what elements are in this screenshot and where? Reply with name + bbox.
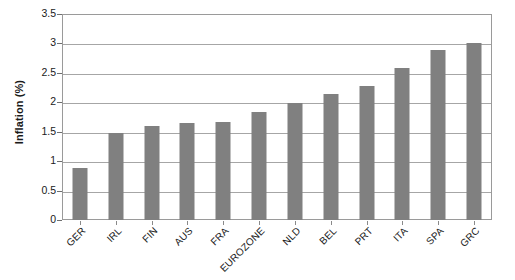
bar-slot — [385, 14, 421, 220]
x-label-slot: EUROZONE — [241, 221, 277, 279]
bar-slot — [241, 14, 277, 220]
x-tick-label-irl: IRL — [104, 225, 123, 244]
x-tick-label-prt: PRT — [352, 225, 374, 247]
x-tick-label-spa: SPA — [424, 225, 446, 247]
bar-slot — [134, 14, 170, 220]
x-label-slot: BEL — [313, 221, 349, 279]
x-label-slot: ITA — [385, 221, 421, 279]
x-tick-mark — [187, 221, 188, 225]
bar-slot — [98, 14, 134, 220]
bar-slot — [277, 14, 313, 220]
bar-fin[interactable] — [144, 126, 159, 220]
x-label-slot: PRT — [349, 221, 385, 279]
bar-irl[interactable] — [108, 133, 123, 220]
bar-chart: Inflation (%) 00.511.522.533.5 GERIRLFIN… — [0, 0, 515, 280]
y-tick-label: 1.5 — [14, 126, 56, 137]
x-tick-label-aus: AUS — [172, 225, 195, 248]
y-tick-label: 3.5 — [14, 8, 56, 19]
y-tick-label: 2 — [14, 96, 56, 107]
bar-slot — [313, 14, 349, 220]
bar-slot — [349, 14, 385, 220]
x-tick-label-bel: BEL — [317, 225, 339, 247]
x-label-slot: FIN — [134, 221, 170, 279]
x-label-slot: NLD — [277, 221, 313, 279]
y-tick-label: 1 — [14, 155, 56, 166]
bar-aus[interactable] — [180, 123, 195, 220]
bar-spa[interactable] — [431, 50, 446, 220]
y-tick-label: 2.5 — [14, 67, 56, 78]
bar-ger[interactable] — [72, 168, 87, 220]
x-label-slot: AUS — [170, 221, 206, 279]
bar-ita[interactable] — [395, 68, 410, 220]
x-tick-label-fin: FIN — [140, 225, 160, 245]
x-axis-labels: GERIRLFINAUSFRAEUROZONENLDBELPRTITASPAGR… — [62, 221, 492, 279]
bar-slot — [205, 14, 241, 220]
x-tick-label-fra: FRA — [209, 225, 231, 247]
bar-slot — [170, 14, 206, 220]
y-tick-label: 0.5 — [14, 185, 56, 196]
x-tick-label-grc: GRC — [458, 225, 482, 249]
bar-prt[interactable] — [359, 86, 374, 220]
bar-slot — [456, 14, 492, 220]
x-tick-label-ita: ITA — [392, 225, 411, 244]
y-tick-label: 3 — [14, 37, 56, 48]
bar-slot — [62, 14, 98, 220]
bar-fra[interactable] — [216, 122, 231, 220]
y-tick-label: 0 — [14, 214, 56, 225]
x-label-slot: GER — [62, 221, 98, 279]
bar-bel[interactable] — [323, 94, 338, 220]
x-tick-label-ger: GER — [64, 225, 88, 249]
bar-slot — [420, 14, 456, 220]
bars-layer — [62, 14, 492, 220]
bar-nld[interactable] — [287, 103, 302, 220]
x-label-slot: GRC — [456, 221, 492, 279]
x-tick-label-nld: NLD — [280, 225, 302, 247]
x-label-slot: SPA — [420, 221, 456, 279]
x-label-slot: IRL — [98, 221, 134, 279]
bar-eurozone[interactable] — [252, 112, 267, 220]
x-tick-mark — [402, 221, 403, 225]
bar-grc[interactable] — [467, 43, 482, 220]
